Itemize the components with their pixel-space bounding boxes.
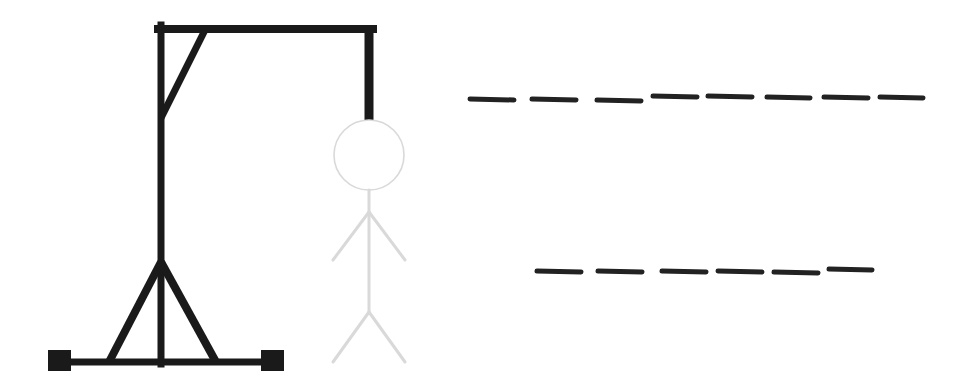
letter-slot[interactable]: [824, 97, 868, 98]
letter-blank: [774, 272, 818, 273]
letter-slot[interactable]: [598, 271, 642, 272]
letter-blank: [537, 271, 581, 272]
letter-blank: [767, 97, 810, 98]
hangman-board: [0, 0, 968, 371]
gallows-foot-2: [261, 350, 284, 371]
letter-blank: [662, 271, 706, 272]
letter-blank: [880, 97, 923, 98]
letter-blank: [824, 97, 868, 98]
letter-slot[interactable]: [708, 96, 752, 97]
letter-blank: [653, 96, 697, 97]
letter-slot[interactable]: [718, 271, 762, 272]
letter-slot[interactable]: [537, 271, 581, 272]
letter-blank: [598, 271, 642, 272]
letter-slot[interactable]: [532, 99, 576, 100]
letter-blank: [532, 99, 576, 100]
letter-slot[interactable]: [774, 272, 818, 273]
letter-slot[interactable]: [767, 97, 810, 98]
background: [0, 0, 968, 371]
letter-blank: [470, 99, 514, 100]
letter-slot[interactable]: [662, 271, 706, 272]
letter-slot[interactable]: [470, 99, 514, 100]
gallows-foot-1: [48, 350, 71, 371]
letter-slot[interactable]: [653, 96, 697, 97]
letter-slot[interactable]: [829, 269, 872, 270]
letter-blank: [708, 96, 752, 97]
letter-slot[interactable]: [880, 97, 923, 98]
letter-slot[interactable]: [597, 100, 641, 101]
letter-blank: [718, 271, 762, 272]
letter-blank: [829, 269, 872, 270]
letter-blank: [597, 100, 641, 101]
